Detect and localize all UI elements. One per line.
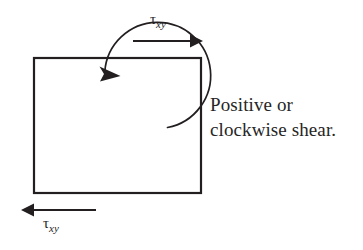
diagram-canvas: τxy τxy Positive or clockwise shear. — [0, 0, 363, 250]
caption-line-1: Positive or — [210, 92, 362, 117]
top-stress-label: τxy — [150, 12, 166, 30]
bottom-stress-label: τxy — [43, 216, 59, 234]
caption-line-2: clockwise shear. — [210, 117, 362, 142]
bottom-shear-arrow — [21, 204, 96, 217]
tau-subscript: xy — [156, 18, 166, 30]
caption-text: Positive or clockwise shear. — [210, 92, 362, 142]
tau-subscript: xy — [49, 222, 59, 234]
